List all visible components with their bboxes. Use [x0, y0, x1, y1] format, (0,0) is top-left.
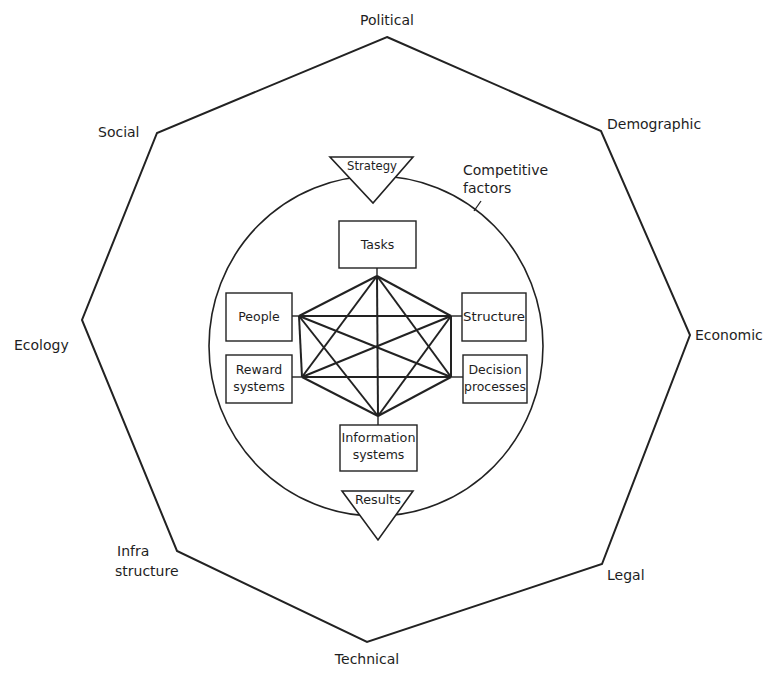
infrastructure-label-line2: structure [115, 563, 179, 579]
interconnection-mesh [299, 276, 451, 416]
reward-label-line2: systems [233, 379, 285, 394]
competitive-factors-label-line2: factors [463, 180, 511, 196]
social-label: Social [98, 124, 140, 140]
diagram-canvas: Tasks People Structure Reward systems De… [0, 0, 778, 675]
economic-label: Economic [695, 327, 763, 343]
reward-label-line1: Reward [236, 362, 283, 377]
ecology-label: Ecology [14, 337, 69, 353]
demographic-label: Demographic [607, 116, 701, 132]
infrastructure-label-line1: Infra [117, 543, 149, 559]
results-label: Results [355, 493, 401, 507]
technical-label: Technical [334, 651, 399, 667]
tasks-label: Tasks [360, 237, 395, 252]
information-label-line1: Information [342, 430, 416, 445]
political-label: Political [360, 12, 414, 28]
competitive-factors-label-line1: Competitive [463, 162, 548, 178]
information-label-line2: systems [353, 447, 405, 462]
competitive-factors-leader [474, 201, 481, 211]
legal-label: Legal [607, 567, 645, 583]
people-label: People [238, 309, 280, 324]
environment-octagon [82, 37, 690, 642]
strategy-label: Strategy [347, 159, 397, 173]
decision-label-line1: Decision [468, 362, 521, 377]
structure-label: Structure [463, 309, 525, 324]
decision-label-line2: processes [464, 379, 526, 394]
